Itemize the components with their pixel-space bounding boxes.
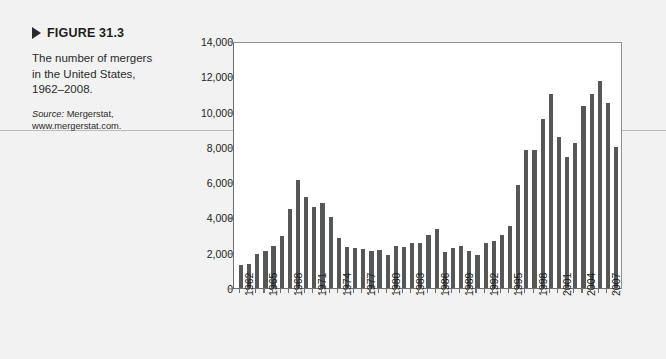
- x-axis-tick-mark: [296, 289, 297, 293]
- bar: [426, 235, 430, 288]
- bar: [581, 106, 585, 288]
- bar: [377, 250, 381, 288]
- bar: [598, 81, 602, 288]
- bar: [353, 248, 357, 288]
- x-axis-tick-mark: [321, 289, 322, 293]
- x-axis-tick-mark: [435, 289, 436, 293]
- bar: [532, 150, 536, 288]
- triangle-right-icon: [32, 27, 41, 39]
- bar: [524, 150, 528, 288]
- x-axis-tick-label: 1998: [537, 273, 549, 296]
- y-axis-tick-mark: [228, 147, 233, 148]
- x-axis-tick-mark: [378, 289, 379, 293]
- x-axis-tick-mark: [410, 289, 411, 293]
- figure-number-label: FIGURE 31.3: [47, 26, 124, 40]
- y-axis-tick-mark: [228, 253, 233, 254]
- plot-top-border: [233, 42, 622, 43]
- bar: [606, 103, 610, 288]
- x-axis-tick-mark: [304, 289, 305, 293]
- bar: [590, 94, 594, 288]
- x-axis-tick-mark: [312, 289, 313, 293]
- bar-series: [235, 42, 622, 288]
- x-axis-tick-label: 1986: [439, 273, 451, 296]
- x-axis-tick-mark: [524, 289, 525, 293]
- bar: [541, 119, 545, 288]
- x-axis-tick-mark: [288, 289, 289, 293]
- x-axis-tick-mark: [418, 289, 419, 293]
- x-axis-tick-mark: [239, 289, 240, 293]
- x-axis-tick-mark: [516, 289, 517, 293]
- x-axis-tick-mark: [427, 289, 428, 293]
- x-axis-tick-mark: [606, 289, 607, 293]
- y-axis-tick-mark: [228, 41, 233, 42]
- x-axis-tick-mark: [337, 289, 338, 293]
- x-axis-tick-mark: [541, 289, 542, 293]
- x-axis-tick-mark: [573, 289, 574, 293]
- x-axis-tick-label: 1980: [390, 273, 402, 296]
- figure-page: FIGURE 31.3 The number of mergers in the…: [0, 0, 666, 359]
- bar: [451, 248, 455, 288]
- bar: [614, 147, 618, 288]
- x-axis-tick-label: 2007: [610, 273, 622, 296]
- bar: [557, 137, 561, 288]
- x-axis-tick-mark: [484, 289, 485, 293]
- x-axis-tick-mark: [451, 289, 452, 293]
- y-axis-tick-mark: [228, 218, 233, 219]
- x-axis-tick-label: 1962: [243, 273, 255, 296]
- x-axis-tick-label: 1977: [365, 273, 377, 296]
- figure-description: The number of mergers in the United Stat…: [32, 51, 162, 98]
- x-axis-tick-label: 1965: [267, 273, 279, 296]
- chart-area: Number of deals 02,0004,0006,0008,00010,…: [178, 30, 648, 330]
- source-word: Source:: [32, 109, 64, 119]
- x-axis-tick-mark: [508, 289, 509, 293]
- plot-area: [233, 42, 622, 289]
- bar: [475, 255, 479, 288]
- x-axis-tick-mark: [500, 289, 501, 293]
- x-axis-tick-mark: [361, 289, 362, 293]
- x-axis-tick-mark: [263, 289, 264, 293]
- x-axis-tick-mark: [459, 289, 460, 293]
- x-axis-tick-mark: [369, 289, 370, 293]
- y-axis-tick-mark: [228, 77, 233, 78]
- x-axis-tick-mark: [394, 289, 395, 293]
- plot-right-border: [621, 42, 622, 289]
- bar: [329, 217, 333, 288]
- x-axis-tick-label: 1974: [341, 273, 353, 296]
- figure-heading: FIGURE 31.3: [32, 26, 162, 40]
- x-axis-tick-mark: [353, 289, 354, 293]
- y-axis-tick-mark: [228, 183, 233, 184]
- x-axis-tick-label: 1992: [488, 273, 500, 296]
- bar: [573, 143, 577, 288]
- x-axis-tick-label: 1989: [463, 273, 475, 296]
- x-axis-tick-mark: [467, 289, 468, 293]
- x-axis-ticks: 1962196519681971197419771980198319861989…: [233, 289, 622, 331]
- x-axis-tick-mark: [247, 289, 248, 293]
- x-axis-tick-label: 1968: [292, 273, 304, 296]
- x-axis-tick-mark: [345, 289, 346, 293]
- x-axis-tick-mark: [581, 289, 582, 293]
- x-axis-tick-mark: [386, 289, 387, 293]
- x-axis-tick-label: 2001: [561, 273, 573, 296]
- x-axis-tick-mark: [280, 289, 281, 293]
- x-axis-tick-mark: [565, 289, 566, 293]
- bar: [304, 197, 308, 288]
- figure-source: Source: Mergerstat, www.mergerstat.com.: [32, 108, 162, 132]
- x-axis-tick-mark: [557, 289, 558, 293]
- bar: [402, 247, 406, 288]
- x-axis-tick-mark: [598, 289, 599, 293]
- bar: [549, 94, 553, 288]
- x-axis-tick-label: 2004: [585, 273, 597, 296]
- bar: [255, 254, 259, 288]
- x-axis-tick-mark: [443, 289, 444, 293]
- x-axis-tick-mark: [272, 289, 273, 293]
- x-axis-tick-mark: [614, 289, 615, 293]
- bar: [565, 157, 569, 288]
- x-axis-tick-label: 1983: [414, 273, 426, 296]
- x-axis-tick-label: 1995: [512, 273, 524, 296]
- x-axis-tick-mark: [255, 289, 256, 293]
- x-axis-tick-mark: [492, 289, 493, 293]
- x-axis-tick-mark: [329, 289, 330, 293]
- x-axis-tick-mark: [475, 289, 476, 293]
- x-axis-tick-mark: [549, 289, 550, 293]
- y-axis-tick-mark: [228, 112, 233, 113]
